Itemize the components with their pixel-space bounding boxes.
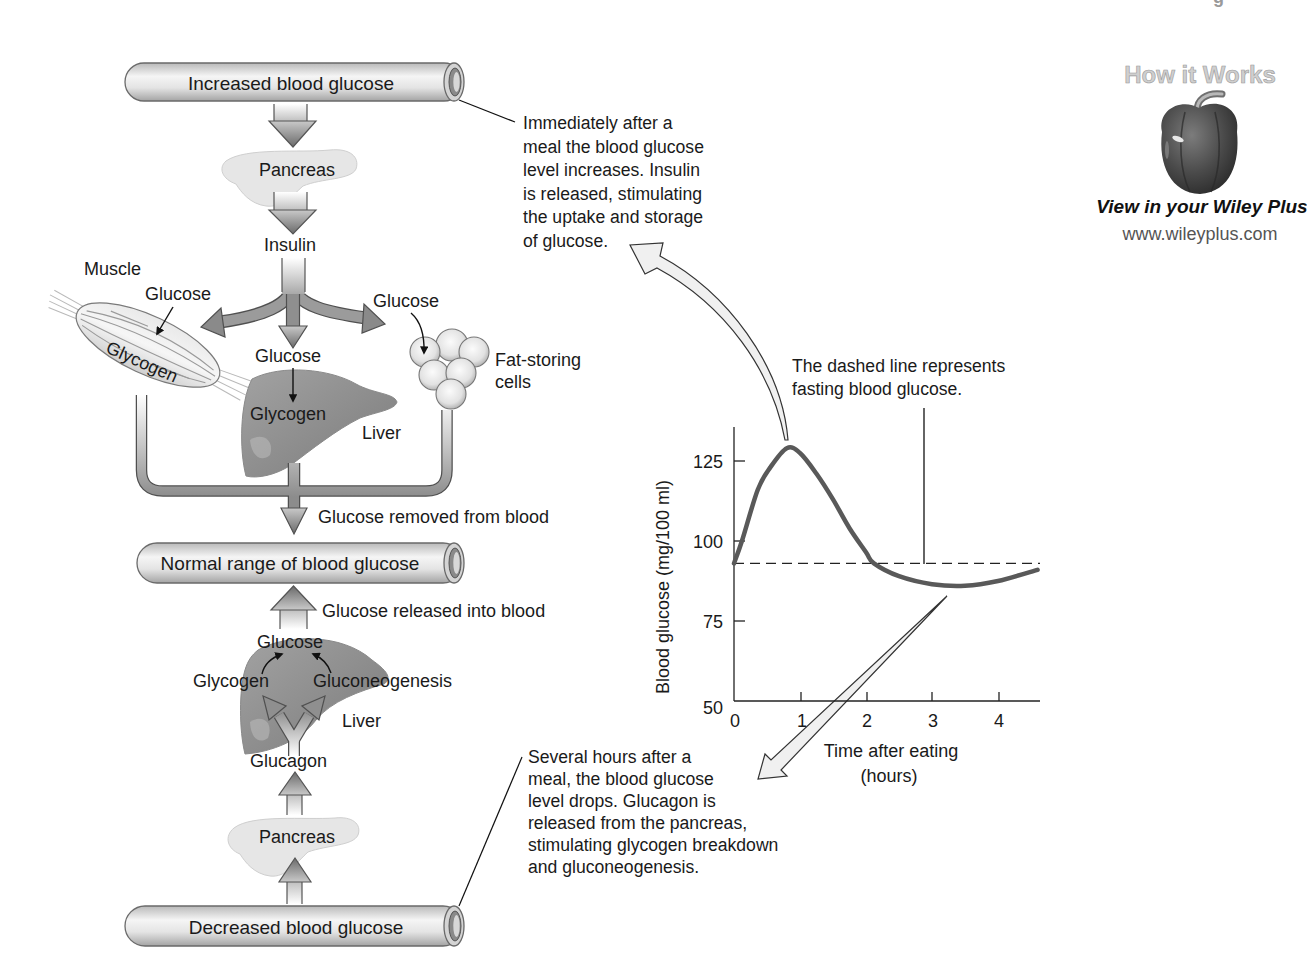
liver-lower-label: Liver	[342, 711, 381, 731]
tube-label-normal: Normal range of blood glucose	[161, 553, 420, 574]
blood-glucose-chart: 125 100 75 50 0 1 2 3 4 Blood glucose (m…	[653, 427, 1040, 786]
liver-upper-label: Liver	[362, 423, 401, 443]
fat-storing-cells-icon: Glucose Fat-storing cells	[373, 291, 581, 409]
x-axis-title-line-2: (hours)	[860, 766, 917, 786]
pancreas-lower-label: Pancreas	[259, 827, 335, 847]
muscle-label: Muscle	[84, 259, 141, 279]
tube-decreased-blood-glucose: Decreased blood glucose	[125, 906, 464, 946]
fat-cells-label-line-2: cells	[495, 372, 531, 392]
note-line: Immediately after a	[523, 113, 673, 133]
lower-glucose-label: Glucose	[257, 632, 323, 652]
muscle-icon: Muscle Glucose Glycogen	[36, 259, 262, 419]
callout-line-increased	[459, 100, 515, 122]
annotation-after-meal: Immediately after a meal the blood gluco…	[523, 113, 704, 251]
callout-line-decreased	[459, 757, 522, 906]
note-line: is released, stimulating	[523, 184, 702, 204]
bell-pepper-icon	[1161, 94, 1237, 194]
note-line: Several hours after a	[528, 747, 692, 767]
hollow-arrow-peak-to-note-icon	[630, 243, 788, 440]
glucose-removed-label: Glucose removed from blood	[318, 507, 549, 527]
tube-increased-blood-glucose: Increased blood glucose	[125, 63, 464, 101]
note-line: of glucose.	[523, 231, 608, 251]
x-tick-label: 4	[994, 711, 1004, 731]
note-line: fasting blood glucose.	[792, 379, 962, 399]
arrow-up-to-normal-range-icon	[271, 586, 316, 629]
page-header-fragment: g	[1213, 0, 1224, 7]
x-axis-title-line-1: Time after eating	[824, 741, 958, 761]
glucose-regulation-figure: g Increased blood glucose Normal range o…	[0, 0, 1307, 968]
x-tick-label: 0	[730, 711, 740, 731]
glucagon-label: Glucagon	[250, 751, 327, 771]
lower-glycogen-label: Glycogen	[193, 671, 269, 691]
annotation-dashed-line: The dashed line represents fasting blood…	[792, 356, 1005, 564]
y-tick-label: 75	[703, 612, 723, 632]
fat-glucose-label: Glucose	[373, 291, 439, 311]
liver-glucose-label: Glucose	[255, 346, 321, 366]
how-it-works-title: How it Works	[1124, 61, 1276, 88]
liver-glycogen-label: Glycogen	[250, 404, 326, 424]
liver-upper-icon: Glucose Glycogen Liver	[242, 346, 401, 477]
muscle-glucose-label: Glucose	[145, 284, 211, 304]
arrow-up-pancreas-to-glucagon-icon	[279, 772, 311, 815]
y-axis-title: Blood glucose (mg/100 ml)	[653, 480, 673, 694]
wiley-plus-badge: How it Works View in your Wiley Plus www…	[1096, 61, 1307, 244]
arrow-down-pancreas-to-insulin-icon	[269, 192, 316, 234]
note-line: level drops. Glucagon is	[528, 791, 716, 811]
note-line: The dashed line represents	[792, 356, 1005, 376]
glucose-released-label: Glucose released into blood	[322, 601, 545, 621]
view-in-wiley-plus-label: View in your Wiley Plus	[1096, 196, 1307, 217]
blood-glucose-curve	[734, 447, 1038, 586]
note-line: meal the blood glucose	[523, 137, 704, 157]
insulin-fork-arrows-icon	[201, 258, 385, 348]
wiley-plus-url: www.wileyplus.com	[1121, 224, 1277, 244]
pancreas-upper-label: Pancreas	[259, 160, 335, 180]
insulin-label: Insulin	[264, 235, 316, 255]
y-tick-label: 125	[693, 452, 723, 472]
tube-label-increased: Increased blood glucose	[188, 73, 394, 94]
note-line: the uptake and storage	[523, 207, 703, 227]
x-tick-label: 2	[862, 711, 872, 731]
x-tick-label: 1	[797, 711, 807, 731]
note-line: level increases. Insulin	[523, 160, 700, 180]
y-tick-label: 50	[703, 698, 723, 718]
fat-cells-label-line-1: Fat-storing	[495, 350, 581, 370]
note-line: and gluconeogenesis.	[528, 857, 699, 877]
annotation-hours-after-meal: Several hours after a meal, the blood gl…	[528, 747, 778, 877]
tube-label-decreased: Decreased blood glucose	[189, 917, 403, 938]
y-tick-label: 100	[693, 532, 723, 552]
note-line: stimulating glycogen breakdown	[528, 835, 778, 855]
arrow-down-tube-to-pancreas-icon	[269, 104, 316, 147]
gluconeogenesis-label: Gluconeogenesis	[313, 671, 452, 691]
tube-normal-blood-glucose: Normal range of blood glucose	[137, 543, 464, 583]
note-line: released from the pancreas,	[528, 813, 747, 833]
note-line: meal, the blood glucose	[528, 769, 714, 789]
axis-ticks	[734, 461, 999, 701]
x-tick-label: 3	[928, 711, 938, 731]
